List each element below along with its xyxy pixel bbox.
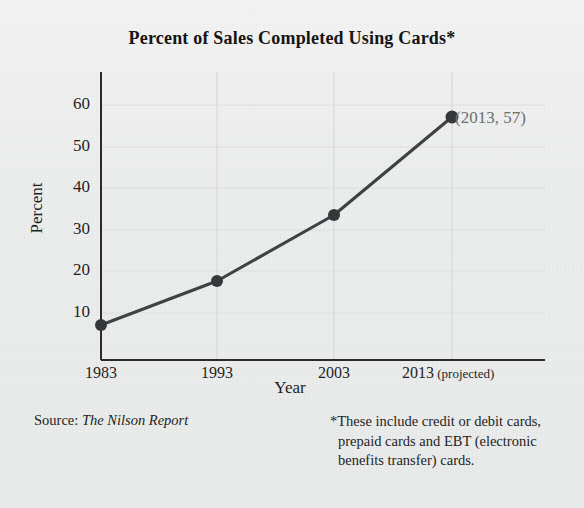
x-tick-label-2013: 2013 (projected) [402, 364, 552, 382]
source-note-name: The Nilson Report [82, 412, 188, 428]
y-tick-label-20: 20 [50, 260, 90, 280]
y-tick-label-60: 60 [50, 94, 90, 114]
data-point-1993 [211, 275, 223, 287]
footnote: *These include credit or debit cards, pr… [330, 412, 570, 471]
footnote-line-1: *These include credit or debit cards, [330, 412, 570, 432]
footnote-line-2: prepaid cards and EBT (electronic [330, 432, 570, 452]
footnote-line-1-text: These include credit or debit cards, [337, 413, 541, 429]
x-axis-title: Year [230, 378, 350, 398]
data-point-1983 [95, 319, 107, 331]
x-tick-label-1983: 1983 [61, 364, 141, 382]
data-point-markers [95, 111, 459, 332]
data-point-annotation: (2013, 57) [455, 108, 526, 128]
chart-figure: Percent of Sales Completed Using Cards* [0, 0, 584, 508]
y-tick-label-10: 10 [50, 302, 90, 322]
source-note: Source: The Nilson Report [34, 412, 188, 429]
horizontal-gridlines [101, 105, 545, 313]
x-tick-label-2013-year: 2013 [402, 364, 434, 381]
y-axis-title: Percent [27, 158, 47, 258]
y-tick-label-50: 50 [50, 136, 90, 156]
y-tick-label-30: 30 [50, 219, 90, 239]
x-tick-label-2013-projected: (projected) [434, 366, 494, 381]
source-note-separator: : [74, 412, 82, 428]
footnote-line-3: benefits transfer) cards. [330, 451, 570, 471]
y-tick-label-40: 40 [50, 177, 90, 197]
data-point-2003 [328, 209, 340, 221]
data-line-series [101, 117, 452, 325]
source-note-prefix: Source [34, 412, 74, 428]
